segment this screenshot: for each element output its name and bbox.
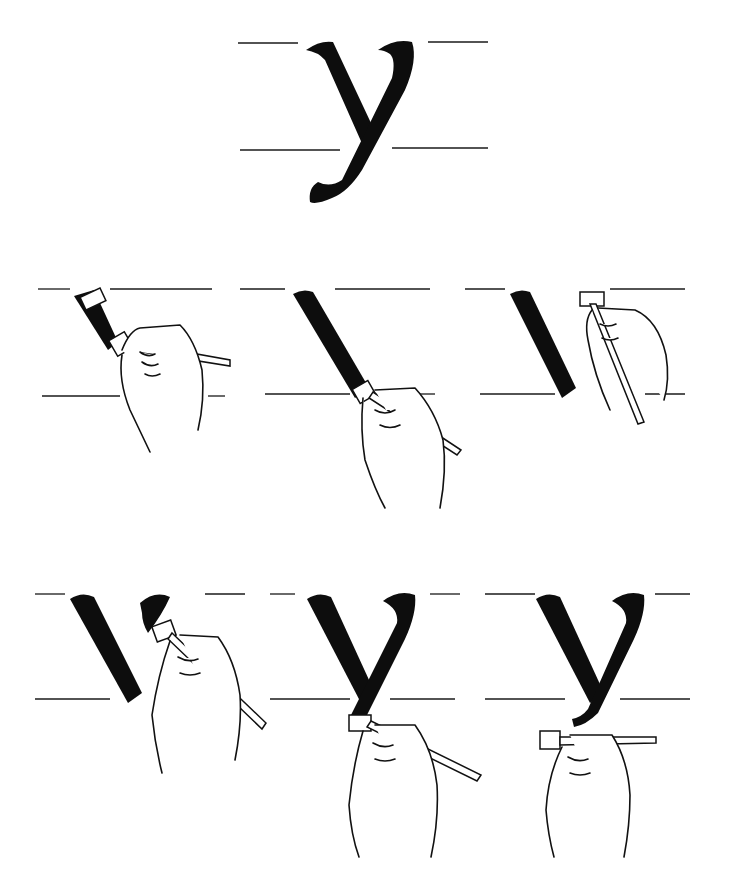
main-letter-panel bbox=[230, 20, 500, 220]
hand-icon bbox=[349, 725, 437, 857]
left-arm-stroke bbox=[307, 594, 375, 703]
step-3-panel bbox=[460, 280, 695, 440]
step-2-illustration bbox=[235, 280, 470, 510]
hand-icon bbox=[152, 635, 240, 773]
hand-icon bbox=[546, 735, 630, 857]
right-arm-stroke bbox=[351, 593, 415, 723]
step-2-panel bbox=[235, 280, 470, 510]
step-6-illustration bbox=[480, 585, 710, 860]
step-5-panel bbox=[265, 585, 490, 860]
step-6-panel bbox=[480, 585, 710, 860]
step-1-panel bbox=[30, 280, 250, 460]
step-3-illustration bbox=[460, 280, 695, 440]
hand-icon bbox=[362, 388, 445, 508]
pen-nib-icon bbox=[80, 288, 106, 310]
step-5-illustration bbox=[265, 585, 490, 860]
pen-nib-icon bbox=[349, 715, 371, 731]
left-arm-stroke bbox=[536, 594, 604, 703]
step-4-illustration bbox=[30, 585, 270, 775]
letter-y-glyph bbox=[230, 20, 500, 220]
step-1-illustration bbox=[30, 280, 250, 460]
first-diagonal-stroke bbox=[70, 594, 142, 703]
pen-nib-icon bbox=[540, 731, 560, 749]
first-diagonal-stroke bbox=[293, 290, 369, 398]
first-diagonal-stroke bbox=[510, 290, 576, 398]
step-4-panel bbox=[30, 585, 270, 775]
hand-icon bbox=[121, 325, 203, 452]
